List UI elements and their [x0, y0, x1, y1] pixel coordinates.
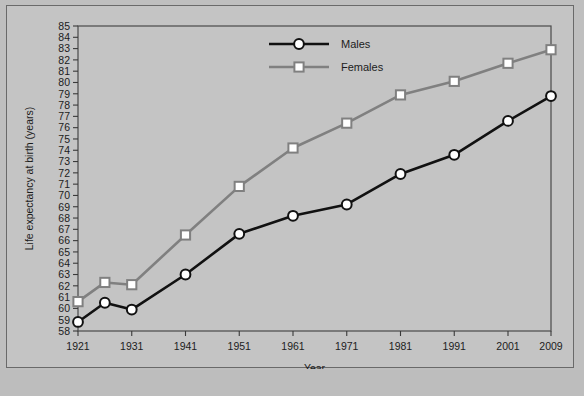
y-axis-tick-label: 60	[58, 302, 70, 314]
y-axis-tick-label: 59	[58, 314, 70, 326]
data-point-marker	[342, 119, 351, 128]
legend-item-males: Males	[269, 38, 371, 50]
y-axis-tick-label: 83	[58, 42, 70, 54]
y-axis-tick-label: 63	[58, 268, 70, 280]
y-axis-tick-label: 62	[58, 280, 70, 292]
legend-label: Males	[341, 38, 371, 50]
legend-label: Females	[341, 61, 384, 73]
x-axis-tick-label: 1971	[335, 340, 359, 352]
x-axis-tick-label: 2009	[539, 340, 563, 352]
data-point-marker	[503, 116, 513, 126]
data-point-marker	[234, 229, 244, 239]
y-axis-tick-label: 70	[58, 189, 70, 201]
y-axis-tick-label: 85	[58, 20, 70, 32]
data-point-marker	[546, 91, 556, 101]
data-point-marker	[181, 270, 191, 280]
y-axis-tick-label: 76	[58, 121, 70, 133]
y-axis-tick-label: 84	[58, 31, 70, 43]
y-axis-tick-label: 74	[58, 144, 70, 156]
y-axis-tick-label: 78	[58, 99, 70, 111]
line-chart: 5859606162636465666768697071727374757677…	[7, 6, 575, 369]
data-point-marker	[288, 211, 298, 221]
series-line	[78, 96, 551, 322]
x-axis-tick-label: 1931	[120, 340, 144, 352]
y-axis-title: Life expectancy at birth (years)	[23, 107, 35, 251]
y-axis-tick-label: 69	[58, 201, 70, 213]
bottom-strip	[0, 370, 584, 396]
data-point-marker	[288, 143, 297, 152]
series-males	[73, 91, 556, 327]
data-point-marker	[73, 317, 83, 327]
y-axis-tick-label: 68	[58, 212, 70, 224]
y-axis-tick-label: 75	[58, 133, 70, 145]
y-axis-tick-label: 80	[58, 76, 70, 88]
x-axis-tick-label: 1921	[66, 340, 90, 352]
y-axis-tick-label: 72	[58, 167, 70, 179]
y-axis-tick-label: 71	[58, 178, 70, 190]
y-axis-tick-label: 82	[58, 54, 70, 66]
data-point-marker	[127, 280, 136, 289]
data-point-marker	[100, 298, 110, 308]
plot-area: 5859606162636465666768697071727374757677…	[7, 6, 575, 369]
y-axis-tick-label: 66	[58, 234, 70, 246]
legend-item-females: Females	[269, 61, 384, 73]
data-point-marker	[181, 230, 190, 239]
y-axis-tick-label: 65	[58, 246, 70, 258]
x-axis-tick-label: 1941	[174, 340, 198, 352]
x-axis-tick-label: 2001	[496, 340, 520, 352]
legend-marker	[294, 39, 304, 49]
data-point-marker	[450, 77, 459, 86]
data-point-marker	[127, 305, 137, 315]
y-axis-tick-label: 58	[58, 325, 70, 337]
x-axis-title: Year	[304, 362, 326, 369]
x-axis-tick-label: 1961	[281, 340, 305, 352]
y-axis-tick-label: 73	[58, 155, 70, 167]
series-line	[78, 50, 551, 302]
y-axis-tick-label: 64	[58, 257, 70, 269]
x-axis-tick-label: 1951	[228, 340, 252, 352]
data-point-marker	[73, 297, 82, 306]
y-axis-tick-label: 81	[58, 65, 70, 77]
data-point-marker	[100, 278, 109, 287]
x-axis-tick-label: 1991	[443, 340, 467, 352]
y-axis-tick-label: 61	[58, 291, 70, 303]
data-point-marker	[503, 59, 512, 68]
legend-marker	[294, 62, 303, 71]
series-females	[73, 45, 555, 306]
data-point-marker	[342, 200, 352, 210]
data-point-marker	[396, 90, 405, 99]
data-point-marker	[396, 169, 406, 179]
y-axis-tick-label: 79	[58, 88, 70, 100]
y-axis-tick-label: 67	[58, 223, 70, 235]
y-axis-tick-label: 77	[58, 110, 70, 122]
data-point-marker	[546, 45, 555, 54]
data-point-marker	[449, 150, 459, 160]
chart-figure: 5859606162636465666768697071727374757677…	[6, 5, 574, 368]
data-point-marker	[235, 182, 244, 191]
x-axis-tick-label: 1981	[389, 340, 413, 352]
